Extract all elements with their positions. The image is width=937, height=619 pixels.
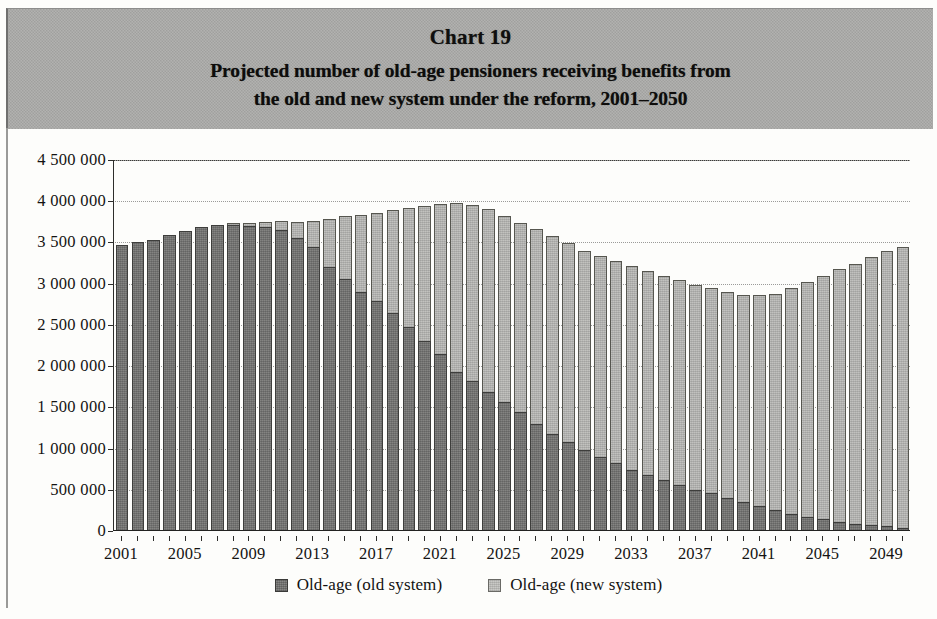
- bar-segment-old-system: [275, 230, 288, 531]
- x-axis-tick-label: 2041: [742, 544, 776, 564]
- bar-segment-new-system: [753, 295, 766, 506]
- bar-segment-new-system: [387, 210, 400, 313]
- y-axis-tickmark: [108, 449, 113, 450]
- x-axis-tickmark: [519, 536, 520, 541]
- x-axis-tickmark: [408, 536, 409, 541]
- bar-segment-new-system: [737, 295, 750, 502]
- bar-segment-old-system: [466, 381, 479, 531]
- x-axis-tickmark: [663, 536, 664, 541]
- x-axis-tickmark: [759, 536, 760, 541]
- bar-group: [721, 292, 734, 531]
- bar-group: [610, 261, 623, 531]
- x-axis-tickmark: [233, 536, 234, 541]
- x-axis-tickmark: [583, 536, 584, 541]
- legend-item-new-system: Old-age (new system): [488, 575, 662, 595]
- y-axis-tick-label: 2 000 000: [37, 356, 106, 376]
- x-axis-tickmark: [790, 536, 791, 541]
- bar-segment-new-system: [705, 288, 718, 493]
- x-axis-tickmark: [711, 536, 712, 541]
- bar-segment-old-system: [737, 502, 750, 531]
- bar-segment-old-system: [291, 238, 304, 532]
- x-axis-tickmark: [551, 536, 552, 541]
- x-axis-tickmark: [169, 536, 170, 541]
- bar-segment-old-system: [689, 490, 702, 531]
- x-axis-tick-label: 2045: [805, 544, 839, 564]
- bar-segment-old-system: [387, 313, 400, 531]
- y-axis-tickmark: [108, 325, 113, 326]
- x-axis-tickmark: [870, 536, 871, 541]
- bar-segment-old-system: [147, 240, 160, 531]
- bar-segment-new-system: [339, 216, 352, 279]
- chart-title-line-1: Projected number of old-age pensioners r…: [210, 57, 730, 85]
- x-axis-tick-label: 2033: [614, 544, 648, 564]
- bar-group: [546, 236, 559, 531]
- bar-group: [562, 243, 575, 531]
- x-axis-tickmark: [472, 536, 473, 541]
- bar-segment-old-system: [658, 480, 671, 531]
- bar-segment-new-system: [323, 219, 336, 268]
- bar-segment-old-system: [594, 457, 607, 531]
- x-axis-tick-label: 2021: [423, 544, 457, 564]
- x-axis-tick-label: 2009: [232, 544, 266, 564]
- x-axis-tickmark: [440, 536, 441, 541]
- bar-segment-old-system: [785, 514, 798, 531]
- bar-group: [434, 204, 447, 531]
- bar-group: [801, 282, 814, 531]
- chart-title-line-2: the old and new system under the reform,…: [254, 85, 688, 113]
- bar-segment-old-system: [642, 475, 655, 531]
- bar-segment-new-system: [769, 294, 782, 511]
- y-axis-tick-label: 3 500 000: [37, 232, 106, 252]
- x-axis-tick-label: 2029: [550, 544, 584, 564]
- bar-group: [195, 227, 208, 531]
- bar-segment-new-system: [833, 269, 846, 521]
- bar-segment-new-system: [801, 282, 814, 516]
- x-axis-tick-label: 2017: [359, 544, 393, 564]
- x-axis-tickmark: [647, 536, 648, 541]
- x-axis-tickmark: [264, 536, 265, 541]
- bar-segment-old-system: [530, 424, 543, 531]
- x-axis-labels: 2001200520092013201720212025202920332037…: [113, 536, 913, 566]
- bar-segment-old-system: [259, 227, 272, 531]
- bar-segment-new-system: [546, 236, 559, 434]
- x-axis-tickmark: [248, 536, 249, 541]
- bar-group: [705, 288, 718, 531]
- y-axis-tickmark: [108, 490, 113, 491]
- bar-segment-old-system: [450, 372, 463, 531]
- chart-page: Chart 19 Projected number of old-age pen…: [0, 0, 937, 619]
- bar-group: [291, 222, 304, 531]
- y-axis-tick-label: 500 000: [50, 480, 106, 500]
- bar-segment-old-system: [323, 267, 336, 531]
- bar-segment-new-system: [721, 292, 734, 498]
- legend-label-old-system: Old-age (old system): [297, 575, 443, 595]
- bar-segment-new-system: [817, 276, 830, 519]
- legend-swatch-old-system-icon: [275, 579, 288, 592]
- x-axis-tickmark: [615, 536, 616, 541]
- bar-segment-new-system: [881, 251, 894, 526]
- bar-group: [450, 203, 463, 531]
- bar-segment-old-system: [705, 493, 718, 531]
- bar-group: [243, 223, 256, 531]
- x-axis-tickmark: [137, 536, 138, 541]
- x-axis-tickmark: [775, 536, 776, 541]
- legend-item-old-system: Old-age (old system): [275, 575, 443, 595]
- x-axis-tickmark: [695, 536, 696, 541]
- x-axis-tickmark: [121, 536, 122, 541]
- chart-number: Chart 19: [430, 25, 512, 50]
- bar-group: [339, 216, 352, 531]
- bar-segment-old-system: [626, 470, 639, 531]
- bar-series-container: [114, 160, 910, 531]
- bar-segment-new-system: [562, 243, 575, 442]
- bar-group: [626, 266, 639, 531]
- y-axis-tickmark: [108, 242, 113, 243]
- x-axis-tickmark: [360, 536, 361, 541]
- bar-segment-old-system: [195, 227, 208, 531]
- bar-segment-old-system: [355, 292, 368, 531]
- bar-group: [147, 240, 160, 531]
- bar-segment-new-system: [658, 276, 671, 480]
- y-axis-tick-label: 4 000 000: [37, 191, 106, 211]
- bar-segment-new-system: [626, 266, 639, 470]
- legend-swatch-new-system-icon: [488, 579, 501, 592]
- bar-group: [514, 223, 527, 531]
- bar-segment-old-system: [371, 301, 384, 531]
- bar-segment-old-system: [339, 279, 352, 531]
